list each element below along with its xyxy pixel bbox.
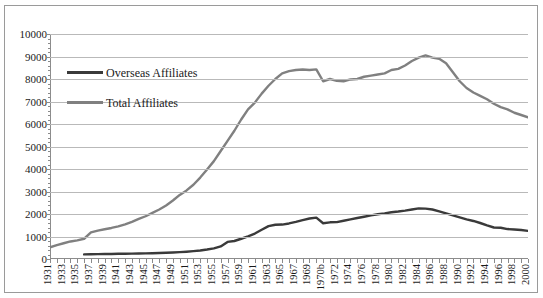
x-axis-tick [521, 259, 522, 263]
x-axis-tick-label: 1994 [482, 264, 489, 285]
x-axis-tick [473, 259, 474, 263]
legend-item-overseas-affiliates: Overseas Affiliates [67, 63, 197, 79]
x-axis-tick [460, 259, 461, 263]
x-axis-tick-label: 1941 [113, 264, 120, 285]
x-axis-tick [419, 259, 420, 263]
x-axis-tick [173, 259, 174, 263]
x-axis-tick [255, 259, 256, 263]
x-axis-tick [193, 259, 194, 263]
x-axis-tick-label: 1943 [127, 264, 134, 285]
x-axis-tick-label: 1982 [400, 264, 407, 285]
x-axis-tick [152, 259, 153, 263]
gridline [50, 237, 528, 238]
x-axis-tick [84, 259, 85, 263]
y-axis-tick-label: 9000 [7, 52, 47, 62]
x-axis-tick [323, 259, 324, 263]
y-axis-tick-label: 6000 [7, 119, 47, 129]
gridline [50, 214, 528, 215]
gridline [50, 147, 528, 148]
x-axis-tick-label: 1992 [468, 264, 475, 285]
x-axis-tick [398, 259, 399, 263]
x-axis-tick-label: 1939 [100, 264, 107, 285]
x-axis-tick [426, 259, 427, 263]
legend-item-total-affiliates: Total Affiliates [67, 93, 178, 109]
x-axis-tick [105, 259, 106, 263]
x-axis-tick [405, 259, 406, 263]
x-axis-tick [187, 259, 188, 263]
x-axis-tick-label: 1933 [59, 264, 66, 285]
x-axis-tick [91, 259, 92, 263]
x-axis-tick [357, 259, 358, 263]
x-axis-tick-label: 1988 [441, 264, 448, 285]
x-axis-tick [432, 259, 433, 263]
x-axis-tick [207, 259, 208, 263]
x-axis-tick [241, 259, 242, 263]
x-axis-tick [453, 259, 454, 263]
x-axis-tick-label: 1949 [168, 264, 175, 285]
y-axis-tick-label: 5000 [7, 142, 47, 152]
x-axis-tick [378, 259, 379, 263]
x-axis-tick-label: 1996 [496, 264, 503, 285]
y-axis-tick-label: 10000 [7, 29, 47, 39]
x-axis-tick [364, 259, 365, 263]
x-axis-tick [50, 259, 51, 263]
x-axis-tick [487, 259, 488, 263]
gridline [50, 34, 528, 35]
y-axis-tick-label: 3000 [7, 187, 47, 197]
x-axis-tick [275, 259, 276, 263]
x-axis-tick-label: 1970b [318, 264, 325, 290]
x-axis-tick [64, 259, 65, 263]
gridline [50, 57, 528, 58]
gridline [50, 124, 528, 125]
x-axis-tick [508, 259, 509, 263]
x-axis-tick [70, 259, 71, 263]
x-axis-tick [371, 259, 372, 263]
x-axis-tick-label: 1931 [45, 264, 52, 285]
x-axis-tick-label: 1953 [195, 264, 202, 285]
legend-label-total: Total Affiliates [106, 96, 178, 111]
x-axis-tick [282, 259, 283, 263]
x-axis-tick [330, 259, 331, 263]
x-axis-tick-label: 1967 [291, 264, 298, 285]
y-axis-tick-label: 8000 [7, 74, 47, 84]
x-axis-tick [344, 259, 345, 263]
x-axis-tick [501, 259, 502, 263]
x-axis-tick-label: 1937 [86, 264, 93, 285]
x-axis-tick [337, 259, 338, 263]
x-axis-tick [166, 259, 167, 263]
gridline [50, 169, 528, 170]
x-axis-tick [296, 259, 297, 263]
x-axis-tick [385, 259, 386, 263]
x-axis-tick [221, 259, 222, 263]
x-axis-tick [180, 259, 181, 263]
x-axis-tick-label: 1959 [236, 264, 243, 285]
legend-swatch-overseas [67, 71, 103, 74]
x-axis-tick-label: 1976 [359, 264, 366, 285]
x-axis-tick [159, 259, 160, 263]
x-axis-tick [214, 259, 215, 263]
x-axis-tick-label: 1984 [414, 264, 421, 285]
x-axis-tick-label: 1961 [250, 264, 257, 285]
x-axis-tick [309, 259, 310, 263]
x-axis-tick-label: 1990 [455, 264, 462, 285]
x-axis-tick [118, 259, 119, 263]
x-axis-tick [446, 259, 447, 263]
y-axis-tick-label: 1000 [7, 232, 47, 242]
y-axis-labels: 0100020003000400050006000700080009000100… [5, 6, 47, 298]
x-axis-tick [125, 259, 126, 263]
chart-legend: Overseas Affiliates Total Affiliates [67, 63, 237, 109]
gridline [50, 192, 528, 193]
x-axis-tick [412, 259, 413, 263]
x-axis-tick-label: 1978 [373, 264, 380, 285]
y-axis-tick-label: 4000 [7, 164, 47, 174]
x-axis-tick [289, 259, 290, 263]
x-axis-tick [234, 259, 235, 263]
x-axis-tick [146, 259, 147, 263]
x-axis-tick [350, 259, 351, 263]
x-axis-tick-label: 1957 [223, 264, 230, 285]
x-axis-tick-label: 1947 [154, 264, 161, 285]
x-axis-tick [467, 259, 468, 263]
x-axis-tick [316, 259, 317, 263]
x-axis-tick-label: 2000 [523, 264, 530, 285]
x-axis-tick [132, 259, 133, 263]
